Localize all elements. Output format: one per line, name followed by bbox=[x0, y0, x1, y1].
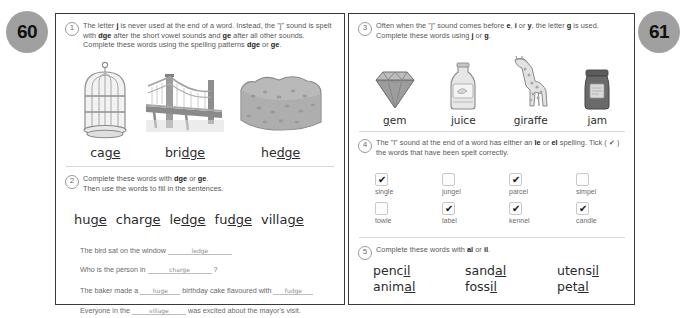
word-bank-item-fudge: fudge bbox=[215, 212, 252, 227]
left-page-divider bbox=[66, 166, 334, 167]
exercise-5: 5 Complete these words with al or il. bbox=[358, 245, 624, 260]
picture-cell-bridge: bridge bbox=[146, 60, 224, 160]
giraffe-icon bbox=[508, 56, 554, 112]
word-bank-item-ledge: ledge bbox=[169, 212, 205, 227]
picture-cell-hedge: hedge bbox=[235, 60, 327, 160]
exercise-5-word-grid: pencil sandal utensil animal fossil peta… bbox=[373, 263, 649, 294]
exercise-5-word-animal: animal bbox=[373, 279, 465, 294]
checkbox-towle[interactable] bbox=[375, 202, 388, 215]
checkbox-label-towle: towle bbox=[375, 217, 391, 224]
checkbox-parcel[interactable]: ✔ bbox=[509, 173, 522, 186]
hedge-icon bbox=[235, 60, 327, 142]
sentence-1-blank[interactable]: ledge bbox=[168, 245, 232, 255]
checkbox-cell-parcel[interactable]: ✔ parcel bbox=[509, 173, 576, 195]
exercise-3-number: 3 bbox=[358, 22, 372, 36]
checkbox-cell-jungel[interactable]: jungel bbox=[442, 173, 509, 195]
right-page-divider-2 bbox=[359, 237, 625, 238]
page-number-badge-right: 61 bbox=[638, 11, 680, 53]
exercise-4-checkbox-grid: ✔ single jungel ✔ parcel simpel towle ✔ bbox=[375, 173, 643, 224]
picture-label-jam: jam bbox=[587, 114, 607, 126]
exercise-4: 4 The "l" sound at the end of a word has… bbox=[358, 138, 624, 157]
checkbox-simpel[interactable] bbox=[576, 173, 589, 186]
exercise-5-word-pencil: pencil bbox=[373, 263, 465, 278]
checkbox-single[interactable]: ✔ bbox=[375, 173, 388, 186]
word-bank-item-village: village bbox=[261, 212, 304, 227]
birdcage-icon bbox=[75, 60, 135, 142]
exercise-1-picture-row: cage bbox=[70, 60, 332, 160]
picture-cell-jam: jam bbox=[581, 68, 613, 126]
right-page: 3 Often when the "j" sound comes before … bbox=[348, 13, 635, 305]
exercise-5-word-utensil: utensil bbox=[557, 263, 649, 278]
exercise-3-instruction: Often when the "j" sound comes before e,… bbox=[376, 21, 624, 40]
picture-label-juice: juice bbox=[451, 114, 476, 126]
checkbox-kennel[interactable]: ✔ bbox=[509, 202, 522, 215]
checkbox-cell-towle[interactable]: towle bbox=[375, 202, 442, 224]
checkbox-label-parcel: parcel bbox=[509, 188, 528, 195]
exercise-1-number: 1 bbox=[65, 22, 79, 36]
sentence-4: Everyone in the village was excited abou… bbox=[80, 305, 301, 315]
left-page: 1 The letter j is never used at the end … bbox=[55, 13, 345, 305]
checkbox-label-label: label bbox=[442, 217, 457, 224]
exercise-5-word-sandal: sandal bbox=[465, 263, 557, 278]
sentence-3-blank-1[interactable]: huge bbox=[140, 285, 180, 295]
word-bank-item-huge: huge bbox=[74, 212, 107, 227]
checkbox-label-jungel: jungel bbox=[442, 188, 461, 195]
sentence-2-blank[interactable]: charge bbox=[148, 264, 212, 274]
jam-icon bbox=[581, 68, 613, 112]
right-page-divider-1 bbox=[359, 131, 625, 132]
checkbox-cell-label[interactable]: ✔ label bbox=[442, 202, 509, 224]
checkbox-cell-kennel[interactable]: ✔ kennel bbox=[509, 202, 576, 224]
bridge-icon bbox=[146, 60, 224, 142]
sentence-3-blank-2[interactable]: fudge bbox=[273, 285, 313, 295]
exercise-5-word-petal: petal bbox=[557, 279, 649, 294]
sentence-1: The bird sat on the window ledge bbox=[80, 245, 232, 255]
exercise-5-word-fossil: fossil bbox=[465, 279, 557, 294]
exercise-1-instruction: The letter j is never used at the end of… bbox=[83, 21, 333, 50]
picture-label-bridge: bridge bbox=[165, 145, 205, 160]
picture-cell-giraffe: giraffe bbox=[508, 56, 554, 126]
checkbox-cell-candle[interactable]: ✔ candle bbox=[576, 202, 643, 224]
sentence-3: The baker made a huge birthday cake flav… bbox=[80, 285, 313, 295]
exercise-4-instruction: The "l" sound at the end of a word has e… bbox=[376, 138, 624, 157]
checkbox-label-kennel: kennel bbox=[509, 217, 530, 224]
sentence-4-blank[interactable]: village bbox=[132, 305, 186, 315]
picture-cell-cage: cage bbox=[75, 60, 135, 160]
word-bank-item-charge: charge bbox=[116, 212, 161, 227]
picture-cell-juice: juice bbox=[446, 62, 480, 126]
checkbox-candle[interactable]: ✔ bbox=[576, 202, 589, 215]
picture-label-gem: gem bbox=[383, 114, 406, 126]
checkbox-cell-simpel[interactable]: simpel bbox=[576, 173, 643, 195]
juice-icon bbox=[446, 62, 480, 112]
exercise-3: 3 Often when the "j" sound comes before … bbox=[358, 21, 624, 40]
exercise-5-number: 5 bbox=[358, 246, 372, 260]
checkbox-label[interactable]: ✔ bbox=[442, 202, 455, 215]
exercise-2: 2 Complete these words with dge or ge. T… bbox=[65, 174, 333, 193]
picture-cell-gem: gem bbox=[371, 66, 419, 126]
picture-label-hedge: hedge bbox=[261, 145, 300, 160]
exercise-2-number: 2 bbox=[65, 175, 79, 189]
exercise-1: 1 The letter j is never used at the end … bbox=[65, 21, 333, 50]
page-number-badge-left: 60 bbox=[6, 11, 48, 53]
exercise-4-number: 4 bbox=[358, 139, 372, 153]
checkbox-cell-single[interactable]: ✔ single bbox=[375, 173, 442, 195]
picture-label-giraffe: giraffe bbox=[514, 114, 548, 126]
gem-icon bbox=[371, 66, 419, 112]
checkbox-label-simpel: simpel bbox=[576, 188, 596, 195]
checkbox-jungel[interactable] bbox=[442, 173, 455, 186]
exercise-3-picture-row: gem juice bbox=[357, 56, 627, 126]
exercise-5-instruction: Complete these words with al or il. bbox=[376, 245, 490, 255]
checkbox-label-candle: candle bbox=[576, 217, 597, 224]
exercise-2-instruction: Complete these words with dge or ge. The… bbox=[83, 174, 224, 193]
sentence-2: Who is the person in charge ? bbox=[80, 264, 218, 274]
checkbox-label-single: single bbox=[375, 188, 393, 195]
exercise-2-word-bank: huge charge ledge fudge village bbox=[74, 212, 304, 227]
picture-label-cage: cage bbox=[90, 145, 120, 160]
